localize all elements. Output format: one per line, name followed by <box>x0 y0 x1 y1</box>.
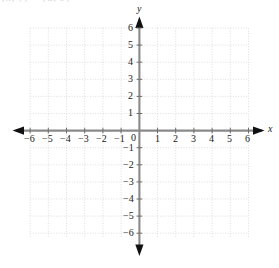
x-axis-arrow-left <box>13 127 25 135</box>
x-tick-label-6: 6 <box>245 134 250 144</box>
y-tick-label--1: −1 <box>123 143 134 153</box>
y-tick-label-2: 2 <box>128 91 133 101</box>
y-axis-arrow-down <box>135 245 143 257</box>
coordinate-plane-figure: (x, y) = (a, b) <box>0 0 279 268</box>
y-axis-arrow-up <box>135 17 143 29</box>
y-tick-label--2: −2 <box>123 160 134 170</box>
y-tick-label--4: −4 <box>123 194 134 204</box>
x-tick-label-2: 2 <box>173 134 178 144</box>
x-tick-label-1: 1 <box>155 134 160 144</box>
x-tick-label--4: −4 <box>60 134 71 144</box>
y-tick-label--3: −3 <box>123 177 134 187</box>
y-axis-label: y <box>137 4 141 14</box>
x-tick-label--6: −6 <box>24 134 35 144</box>
x-tick-label-3: 3 <box>191 134 196 144</box>
x-tick-label-5: 5 <box>227 134 232 144</box>
y-tick-label-4: 4 <box>128 57 133 67</box>
x-axis-arrow-right <box>253 127 265 135</box>
x-tick-label--2: −2 <box>96 134 107 144</box>
y-tick-label-5: 5 <box>128 40 133 50</box>
x-tick-label--3: −3 <box>78 134 89 144</box>
y-tick-label--5: −5 <box>123 211 134 221</box>
x-tick-label-4: 4 <box>209 134 214 144</box>
y-tick-label-6: 6 <box>128 23 133 33</box>
y-tick-label--6: −6 <box>123 228 134 238</box>
y-tick-label-1: 1 <box>128 108 133 118</box>
x-tick-label--5: −5 <box>42 134 53 144</box>
y-tick-label-3: 3 <box>128 74 133 84</box>
x-axis-label: x <box>268 124 272 134</box>
